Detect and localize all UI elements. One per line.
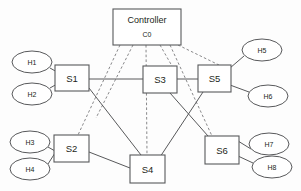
host-h2-label: H2	[28, 91, 37, 98]
switch-s2[interactable]: S2	[54, 135, 89, 162]
host-h2[interactable]: H2	[12, 83, 52, 105]
switch-s4[interactable]: S4	[130, 155, 165, 183]
host-h6-label: H6	[264, 93, 273, 100]
switch-s1-label: S1	[66, 73, 78, 84]
host-h3-label: H3	[26, 139, 35, 146]
host-h6[interactable]: H6	[248, 85, 288, 107]
host-h3[interactable]: H3	[10, 131, 50, 153]
host-h5-label: H5	[258, 47, 267, 54]
host-h8-label: H8	[268, 164, 277, 171]
data-link-s1-s4	[89, 88, 141, 155]
controller-node[interactable]: ControllerC0	[113, 9, 181, 45]
control-link-c0-s1	[96, 45, 133, 118]
switch-s4-label: S4	[142, 164, 154, 175]
switch-s3-label: S3	[154, 74, 166, 85]
control-link-c0-s3	[160, 45, 172, 66]
network-topology-diagram: ControllerC0S1S2S3S4S5S6H1H2H3H4H5H6H7H8	[0, 0, 301, 191]
controller-id: C0	[143, 31, 152, 38]
host-link-h6-s5	[230, 85, 249, 92]
switch-s6[interactable]: S6	[205, 136, 239, 164]
host-link-h8-s6	[238, 156, 253, 163]
topology-canvas: ControllerC0S1S2S3S4S5S6H1H2H3H4H5H6H7H8	[0, 0, 301, 191]
switch-s5-label: S5	[209, 73, 221, 84]
data-link-s2-s4	[89, 152, 130, 168]
switch-s3[interactable]: S3	[143, 66, 177, 93]
data-link-s5-s4	[160, 92, 203, 157]
host-h1[interactable]: H1	[12, 51, 52, 73]
host-h8[interactable]: H8	[252, 156, 292, 178]
host-h4[interactable]: H4	[10, 158, 50, 180]
switch-s6-label: S6	[216, 145, 228, 156]
switch-s2-label: S2	[66, 143, 78, 154]
host-h7[interactable]: H7	[249, 133, 289, 155]
control-link-c0-s4	[146, 45, 147, 155]
control-link-c0-s5	[178, 45, 219, 65]
host-h7-label: H7	[265, 141, 274, 148]
host-h1-label: H1	[28, 59, 37, 66]
switch-s5[interactable]: S5	[198, 65, 231, 92]
host-h4-label: H4	[26, 166, 35, 173]
host-link-h5-s5	[230, 56, 244, 68]
switch-s1[interactable]: S1	[55, 65, 89, 91]
host-h5[interactable]: H5	[242, 39, 282, 61]
controller-title: Controller	[127, 15, 166, 25]
data-link-s3-s6	[170, 93, 208, 136]
